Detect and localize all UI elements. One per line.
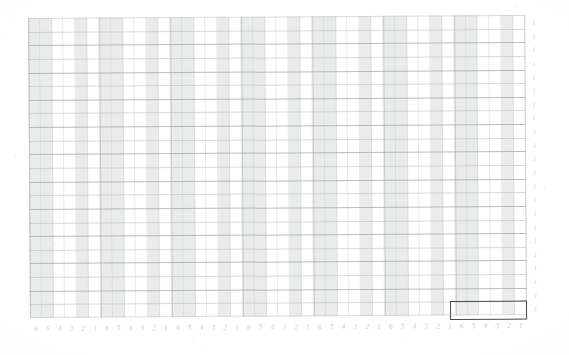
column-label: 3 [136,319,148,335]
column-label: 1 [89,320,101,336]
column-label: 6 [172,319,184,335]
column-label: 3 [349,318,361,334]
scanned-page: 6543216543216543216543216543216543216543… [0,0,569,355]
column-label-group: 654321 [385,317,456,333]
column-label: 1 [373,318,385,334]
column-label: 4 [338,318,350,334]
column-label: 4 [54,320,66,336]
column-label: 2 [361,318,373,334]
column-label: 5 [42,320,54,336]
row-label: 1 [533,237,553,245]
column-label: 6 [30,320,42,336]
grid-columns-container [28,15,527,318]
column-label-group: 654321 [172,319,243,335]
row-label: 1 [533,251,553,259]
column-label: 1 [302,318,314,334]
column-label: 1 [231,319,243,335]
row-label: 1 [532,87,552,95]
column-label: 6 [385,318,397,334]
row-label: 1 [532,73,552,81]
row-label: 1 [533,101,553,109]
row-label: 1 [534,292,554,300]
row-label: 1 [532,46,552,54]
column-label: 3 [420,318,432,334]
column-label: 1 [160,319,172,335]
column-label: 5 [255,319,267,335]
column-group [383,15,456,315]
row-label-column: 1111111111111111111111 [532,18,554,318]
row-label: 1 [532,60,552,68]
row-label: 1 [533,223,553,231]
row-label: 1 [532,33,552,41]
column-group [241,16,314,316]
column-label: 6 [314,318,326,334]
row-label: 1 [533,114,553,122]
column-label-group: 654321 [30,320,101,336]
column-label: 6 [243,319,255,335]
row-label: 1 [534,264,554,272]
column-label: 2 [219,319,231,335]
column-label-group: 654321 [243,318,314,334]
column-label: 5 [184,319,196,335]
row-label: 1 [533,182,553,190]
column-group [28,18,101,318]
row-label: 1 [533,128,553,136]
column-label-group: 654321 [101,319,172,335]
column-group [454,15,527,315]
column-label: 4 [408,318,420,334]
column-group [312,16,385,316]
highlight-selection-box[interactable] [450,301,527,320]
row-label: 1 [533,142,553,150]
column-group [99,17,172,317]
row-label: 1 [533,196,553,204]
row-label: 1 [532,19,552,27]
column-label-group: 654321 [314,318,385,334]
grid-column[interactable] [513,15,527,315]
column-group [170,17,243,317]
column-label: 3 [207,319,219,335]
row-label: 1 [534,305,554,313]
column-label: 2 [290,318,302,334]
column-label: 5 [113,319,125,335]
column-label: 2 [432,317,444,333]
row-label: 1 [534,278,554,286]
column-label: 5 [326,318,338,334]
column-label: 4 [267,318,279,334]
column-label: 3 [65,320,77,336]
row-label: 1 [533,210,553,218]
column-label: 4 [125,319,137,335]
column-label: 2 [77,320,89,336]
ledger-grid[interactable] [28,15,527,318]
column-label: 6 [101,319,113,335]
row-label: 1 [533,155,553,163]
column-label: 2 [148,319,160,335]
column-label: 4 [196,319,208,335]
column-label: 3 [278,318,290,334]
column-label: 5 [397,318,409,334]
row-label: 1 [533,169,553,177]
